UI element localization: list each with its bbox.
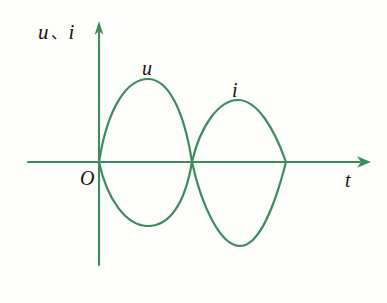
axes-group [28, 21, 371, 265]
y-axis-label-separator: 、 [50, 24, 69, 41]
waveform-figure: u、i O t u i [0, 0, 387, 303]
curve-u-negative-halfwave [99, 162, 192, 226]
curve-i-group [192, 100, 286, 246]
y-axis-label: u、i [38, 22, 75, 43]
curve-u-label: u [142, 58, 152, 78]
y-axis-label-u: u [38, 20, 50, 44]
curve-u-group [99, 79, 192, 226]
waveform-svg [0, 0, 387, 303]
curve-i-negative-halfwave [192, 162, 286, 246]
curve-i-label: i [232, 80, 238, 100]
curve-u-positive-halfwave [99, 79, 192, 162]
x-axis-label: t [345, 170, 351, 190]
y-axis-label-i: i [69, 20, 76, 44]
curve-i-positive-halfwave [192, 100, 286, 162]
origin-label: O [80, 168, 94, 188]
